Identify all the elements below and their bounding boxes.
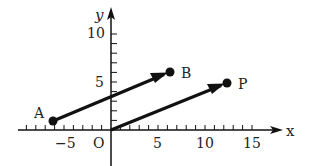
x-tick-label: −5 — [55, 135, 76, 151]
vector-diagram: −5 5 10 15 x 5 10 y O — [0, 0, 312, 166]
point-a — [49, 117, 58, 126]
x-axis-label: x — [286, 122, 295, 140]
x-tick-label: 15 — [243, 135, 261, 151]
y-tick-label: 5 — [95, 74, 104, 90]
point-label-a: A — [33, 105, 45, 121]
point-b — [166, 68, 175, 77]
x-tick-label: 10 — [196, 135, 214, 151]
y-tick-label: 10 — [87, 25, 105, 41]
point-label-b: B — [181, 65, 191, 81]
y-axis-label: y — [94, 6, 104, 24]
y-ticks — [111, 34, 117, 120]
arrowhead-icon — [150, 73, 168, 84]
point-p — [223, 79, 232, 88]
point-label-p: P — [238, 76, 247, 92]
origin-label: O — [93, 135, 104, 151]
x-tick-label: 5 — [153, 135, 162, 151]
x-axis: −5 5 10 15 x — [18, 122, 295, 151]
arrowhead-icon — [207, 84, 225, 95]
